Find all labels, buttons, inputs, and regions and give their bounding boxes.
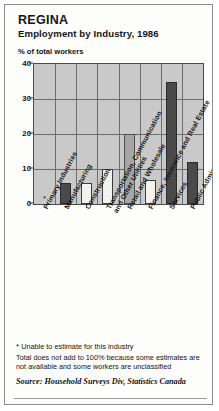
bar-6 <box>166 82 177 205</box>
footnote-star-text: Unable to estimate for this industry <box>21 342 133 351</box>
footnote-star: * Unable to estimate for this industry <box>16 342 206 351</box>
chart-card: REGINA Employment by Industry, 1986 % of… <box>4 4 213 405</box>
page-title: REGINA <box>18 13 68 27</box>
asterisk-icon: * <box>16 342 19 351</box>
chart-subtitle: Employment by Industry, 1986 <box>18 28 159 39</box>
footnotes: * Unable to estimate for this industry T… <box>16 342 206 386</box>
y-axis-caption: % of total workers <box>18 47 83 56</box>
y-axis: 010203040 <box>5 63 31 205</box>
x-axis-category-labels: Primary IndustriesManufacturingConstruct… <box>5 205 213 340</box>
footnote-body: Total does not add to 100% because some … <box>16 353 206 372</box>
source-citation: Source: Household Surveys Div, Statistic… <box>16 377 206 386</box>
footer-divider <box>14 398 207 399</box>
